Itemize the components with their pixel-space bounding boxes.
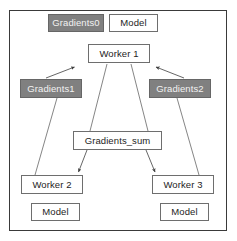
node-worker2-label: Worker 2: [32, 180, 71, 190]
node-worker1[interactable]: Worker 1: [88, 44, 150, 63]
node-worker1-label: Worker 1: [99, 49, 138, 59]
node-gradients1-label: Gradients1: [27, 84, 74, 94]
node-gradients0[interactable]: Gradients0: [48, 14, 104, 32]
node-model-worker2[interactable]: Model: [31, 203, 80, 221]
node-gradients0-label: Gradients0: [52, 18, 99, 28]
node-model-worker3[interactable]: Model: [160, 203, 209, 221]
diagram-canvas: Gradients0 Model Worker 1 Gradients1 Gra…: [0, 0, 237, 241]
node-gradients1[interactable]: Gradients1: [20, 79, 82, 98]
node-gradients-sum-label: Gradients_sum: [85, 136, 151, 146]
node-worker3[interactable]: Worker 3: [152, 175, 214, 194]
node-worker2[interactable]: Worker 2: [21, 175, 83, 194]
node-model-worker2-label: Model: [42, 207, 68, 217]
node-gradients2-label: Gradients2: [156, 84, 203, 94]
node-model-worker3-label: Model: [171, 207, 197, 217]
node-model-worker1-label: Model: [120, 18, 146, 28]
node-model-worker1[interactable]: Model: [109, 14, 158, 32]
node-gradients2[interactable]: Gradients2: [149, 79, 211, 98]
node-gradients-sum[interactable]: Gradients_sum: [73, 131, 162, 150]
node-worker3-label: Worker 3: [163, 180, 202, 190]
